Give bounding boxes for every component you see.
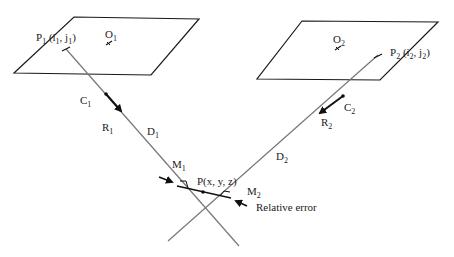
p-dot — [201, 190, 205, 194]
m1-pointer-arrow — [159, 177, 172, 182]
d1-label: D1 — [147, 125, 159, 140]
o2-label: O2 — [333, 33, 345, 48]
image-plane-1 — [14, 17, 199, 75]
p-label: P(x, y, z) — [197, 175, 237, 188]
o1-label: O1 — [105, 28, 117, 43]
p2-label: P2 (i2, j2) — [390, 46, 430, 61]
r2-label: R2 — [321, 116, 332, 131]
p2-marker — [374, 54, 382, 58]
stereo-diagram: P1 (i1, j1) O1 O2 P2 (i2, j2) C1 R1 D1 C… — [0, 0, 454, 257]
r2-arrow — [320, 96, 343, 113]
d2-label: D2 — [276, 150, 288, 165]
c2-label: C2 — [344, 101, 355, 116]
m1-label: M1 — [172, 158, 186, 173]
c1-label: C1 — [80, 94, 91, 109]
relative-error-label: Relative error — [256, 201, 317, 213]
ray-d1 — [66, 49, 239, 246]
p1-marker — [62, 47, 70, 51]
m2-pointer-arrow — [236, 201, 247, 206]
r1-label: R1 — [102, 121, 113, 136]
image-plane-2 — [257, 21, 438, 80]
m2-label: M2 — [247, 185, 261, 200]
ray-d2 — [168, 55, 378, 241]
r1-arrow — [106, 94, 121, 111]
